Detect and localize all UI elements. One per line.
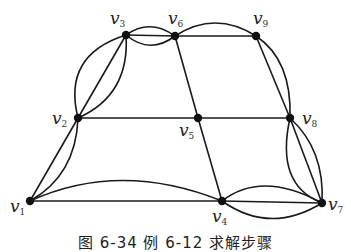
vertex-v3 [122,31,130,39]
edge-v5-v4 [198,118,222,201]
edge-v6-v9 [175,23,256,36]
edge-v2-v3 [78,35,126,118]
vertex-v6 [171,32,179,40]
edge-v3-v6 [126,35,175,36]
vertex-v1 [26,197,34,205]
vertex-label-v2: v2 [52,108,67,129]
vertex-label-v6: v6 [168,8,184,29]
vertex-label-v4: v4 [212,206,228,227]
vertex-label-v8: v8 [302,108,318,129]
graph-nodes [26,31,326,207]
graph-edges [30,23,322,219]
edge-v1-v2 [30,118,78,201]
vertex-v7 [318,199,326,207]
vertex-v8 [286,114,294,122]
vertex-v5 [194,114,202,122]
vertex-label-v9: v9 [253,8,269,29]
edge-v1-v4 [30,181,222,202]
edge-v4-v7 [222,201,322,203]
figure-caption: 图 6-34 例 6-12 求解步骤 [0,231,351,252]
vertex-v4 [218,197,226,205]
vertex-label-v5: v5 [179,120,195,141]
vertex-v2 [74,114,82,122]
vertex-v9 [252,32,260,40]
vertex-label-v7: v7 [328,194,344,215]
vertex-label-v1: v1 [10,196,25,217]
edge-v6-v5 [175,36,198,118]
vertex-label-v3: v3 [110,8,126,29]
edge-v4-v7 [222,201,322,219]
